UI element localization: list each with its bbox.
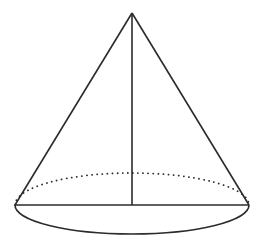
cone-diagram [0,0,261,250]
slant-edge-right [132,13,249,205]
base-ellipse-front [15,205,249,234]
slant-edge-left [15,13,132,205]
